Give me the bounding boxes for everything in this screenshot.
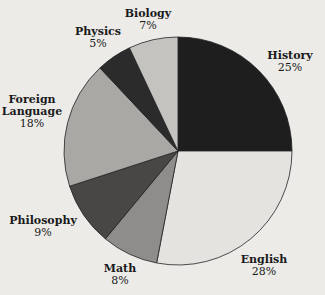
slice-english	[157, 151, 292, 265]
label-history: History 25%	[267, 50, 312, 74]
label-english: English 28%	[241, 254, 288, 278]
label-biology: Biology 7%	[125, 8, 171, 32]
pie-chart	[0, 0, 325, 295]
label-foreign-language: Foreign Language 18%	[2, 94, 62, 130]
label-math: Math 8%	[104, 263, 136, 287]
label-philosophy: Philosophy 9%	[9, 215, 77, 239]
label-physics: Physics 5%	[75, 26, 121, 50]
